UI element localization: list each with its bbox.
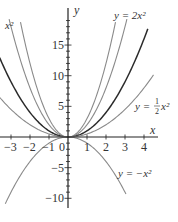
parabola-chart: −3−2−101234−10−551015 y x x² y = 2x² y =… <box>0 0 178 222</box>
svg-text:1: 1 <box>155 97 159 106</box>
y-tick-label: −5 <box>51 161 64 175</box>
x-tick-label: 0 <box>59 140 65 154</box>
curve <box>0 75 153 137</box>
x-tick-label: 2 <box>103 140 109 154</box>
label-neg-x2: y = −x² <box>117 167 152 179</box>
x-tick-label: 4 <box>141 140 147 154</box>
label-3x2: x² <box>4 19 14 31</box>
svg-text:2: 2 <box>155 107 159 116</box>
x-axis-label: x <box>149 123 156 137</box>
x-tick-label: −1 <box>42 140 55 154</box>
y-axis-label: y <box>73 3 80 17</box>
y-tick-label: 5 <box>58 99 64 113</box>
x-tick-label: −3 <box>4 140 17 154</box>
svg-text:y =: y = <box>134 100 150 112</box>
label-half-x2: y = 1 2 x² <box>134 97 170 116</box>
y-tick-label: 10 <box>52 69 64 83</box>
x-tick-label: 3 <box>122 140 128 154</box>
x-tick-label: −2 <box>23 140 36 154</box>
label-2x2: y = 2x² <box>113 9 146 21</box>
svg-text:x²: x² <box>160 100 170 112</box>
x-tick-label: 1 <box>84 140 90 154</box>
y-tick-label: 15 <box>52 38 64 52</box>
y-tick-label: −10 <box>45 191 64 205</box>
curve <box>0 29 148 137</box>
